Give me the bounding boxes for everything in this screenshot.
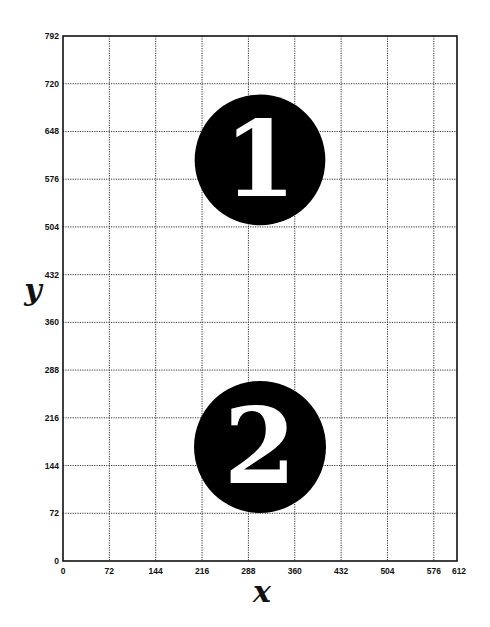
coordinate-plot: 12 072144216288360432504576612 072144216…: [0, 0, 490, 627]
y-tick-label: 648: [45, 126, 59, 136]
x-tick-label: 432: [334, 566, 348, 576]
y-tick-label: 72: [50, 508, 60, 518]
y-tick-label: 0: [54, 556, 59, 566]
x-axis-title: x: [252, 574, 272, 609]
x-tick-label: 0: [61, 566, 66, 576]
y-tick-label: 720: [45, 79, 59, 89]
y-tick-label: 504: [45, 222, 59, 232]
y-tick-label: 432: [45, 270, 59, 280]
x-tick-label: 216: [195, 566, 209, 576]
x-tick-label: 72: [105, 566, 115, 576]
marker-2: 2: [194, 381, 326, 513]
marker-number-label: 2: [224, 385, 296, 508]
y-tick-label: 576: [45, 174, 59, 184]
x-tick-label: 360: [288, 566, 302, 576]
y-axis-ticks: 072144216288360432504576648720792: [45, 31, 59, 566]
y-tick-label: 792: [45, 31, 59, 41]
x-tick-label: 576: [427, 566, 441, 576]
y-tick-label: 216: [45, 413, 59, 423]
numbered-markers: 12: [194, 95, 326, 513]
y-tick-label: 360: [45, 317, 59, 327]
y-tick-label: 288: [45, 365, 59, 375]
y-tick-label: 144: [45, 461, 59, 471]
x-tick-label: 612: [452, 566, 466, 576]
marker-number-label: 1: [224, 98, 296, 221]
y-axis-title: y: [23, 272, 44, 307]
x-tick-label: 144: [149, 566, 163, 576]
x-tick-label: 504: [380, 566, 394, 576]
marker-1: 1: [195, 95, 326, 226]
